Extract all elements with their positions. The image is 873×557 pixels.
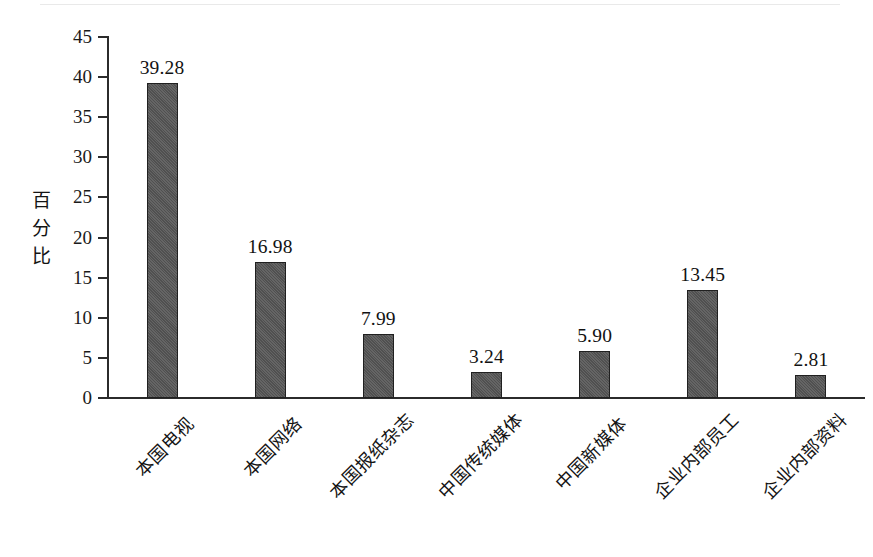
x-axis-category-label: 企业内部资料: [759, 414, 847, 502]
bar: [579, 351, 610, 398]
y-axis-tick-label: 0: [42, 388, 92, 407]
bar-value-label: 7.99: [333, 309, 423, 329]
y-axis-tick-label: 40: [42, 67, 92, 86]
bar: [147, 83, 178, 398]
y-axis-tick: [98, 76, 108, 78]
scan-artifact-line: [40, 4, 840, 5]
x-axis-category-label: 本国电视: [110, 414, 198, 502]
y-axis-tick: [98, 397, 108, 399]
bar: [255, 262, 286, 398]
y-axis-tick: [98, 36, 108, 38]
y-axis-tick: [98, 116, 108, 118]
y-axis-tick-label: 20: [42, 228, 92, 247]
y-axis-tick-label: 25: [42, 187, 92, 206]
y-axis-tick: [98, 317, 108, 319]
bar: [795, 375, 826, 398]
bar-value-label: 16.98: [225, 237, 315, 257]
bar-value-label: 3.24: [442, 347, 532, 367]
y-axis-tick: [98, 357, 108, 359]
y-axis-tick-label: 35: [42, 107, 92, 126]
bar-value-label: 13.45: [658, 265, 748, 285]
bar: [471, 372, 502, 398]
x-axis-category-label: 中国传统媒体: [434, 414, 522, 502]
y-axis-line: [107, 36, 109, 399]
y-axis-tick-label: 10: [42, 308, 92, 327]
x-axis-category-label: 本国网络: [218, 414, 306, 502]
x-axis-category-label: 本国报纸杂志: [326, 414, 414, 502]
bar: [363, 334, 394, 398]
bar-chart: 百 分 比 454035302520151050 39.2816.987.993…: [0, 0, 873, 557]
bar-value-label: 39.28: [117, 58, 207, 78]
y-axis-tick: [98, 237, 108, 239]
y-axis-tick: [98, 196, 108, 198]
bar-value-label: 5.90: [550, 326, 640, 346]
y-axis-tick-label: 5: [42, 348, 92, 367]
y-axis-tick-label: 30: [42, 147, 92, 166]
x-axis-category-label: 企业内部员工: [651, 414, 739, 502]
y-axis-tick: [98, 156, 108, 158]
y-axis-tick: [98, 277, 108, 279]
y-axis-tick-label: 15: [42, 268, 92, 287]
y-axis-tick-label: 45: [42, 27, 92, 46]
bar-value-label: 2.81: [766, 350, 856, 370]
x-axis-category-label: 中国新媒体: [542, 414, 630, 502]
bar: [687, 290, 718, 398]
